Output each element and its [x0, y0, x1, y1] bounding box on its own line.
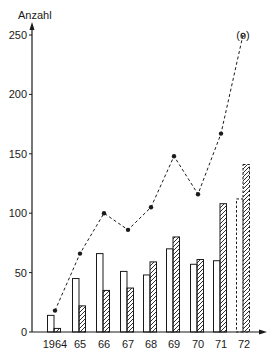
data-point-dot: [196, 192, 200, 196]
hatched-bar: [243, 164, 250, 332]
data-point-dot: [172, 154, 176, 158]
y-tick-label: 200: [9, 88, 27, 100]
empty-bar: [48, 315, 55, 332]
data-point-dot: [149, 205, 153, 209]
x-axis-ticks: 19646566676869707172: [43, 338, 250, 350]
y-tick-label: 100: [9, 207, 27, 219]
x-tick-label: 65: [74, 338, 86, 350]
x-tick-label: 69: [168, 338, 180, 350]
hatched-bar: [197, 260, 204, 332]
hatched-bar: [103, 290, 110, 332]
data-point-dot: [53, 308, 57, 312]
bar-group-65: [73, 279, 86, 332]
data-point-dot: [219, 131, 223, 135]
empty-bar: [121, 271, 128, 332]
empty-bar: [237, 199, 244, 332]
bar-group-69: [167, 237, 180, 332]
x-tick-label: 72: [238, 338, 250, 350]
empty-bar: [214, 261, 221, 332]
chart-container: (o) Anzahl 050100150200250 1964656667686…: [0, 0, 272, 354]
y-tick-label: 150: [9, 148, 27, 160]
y-axis-title: Anzahl: [18, 9, 52, 21]
x-tick-label: 71: [215, 338, 227, 350]
axes: Anzahl: [18, 9, 267, 335]
bar-group-66: [97, 254, 110, 332]
hatched-bar: [220, 204, 227, 332]
x-tick-label: 70: [192, 338, 204, 350]
data-point-dot: [78, 251, 82, 255]
y-tick-label: 50: [15, 267, 27, 279]
bar-group-71: [214, 204, 227, 332]
bar-group-1964: [48, 315, 61, 332]
data-point-dot: [102, 211, 106, 215]
x-tick-label: 67: [122, 338, 134, 350]
empty-bar: [73, 279, 80, 332]
bars-layer: [48, 164, 250, 332]
hatched-bar: [150, 262, 157, 332]
x-tick-label: 68: [145, 338, 157, 350]
empty-bar: [167, 249, 174, 332]
bar-group-70: [191, 260, 204, 332]
hatched-bar: [79, 306, 86, 332]
empty-bar: [144, 275, 151, 332]
empty-bar: [191, 264, 198, 332]
y-tick-label: 250: [9, 29, 27, 41]
y-tick-label: 0: [21, 326, 27, 338]
x-tick-label: 1964: [43, 338, 67, 350]
bar-group-68: [144, 262, 157, 332]
hatched-bar: [127, 288, 134, 332]
x-tick-label: 66: [98, 338, 110, 350]
bar-group-67: [121, 271, 134, 332]
bar-group-72: [237, 164, 250, 332]
projected-point-label: (o): [236, 29, 249, 41]
empty-bar: [97, 254, 104, 332]
bar-line-chart: (o) Anzahl 050100150200250 1964656667686…: [0, 0, 272, 354]
y-axis-arrow-icon: [30, 22, 35, 30]
hatched-bar: [173, 237, 180, 332]
x-axis-arrow-icon: [259, 330, 267, 335]
data-point-dot: [126, 228, 130, 232]
y-axis-ticks: 050100150200250: [9, 29, 32, 338]
